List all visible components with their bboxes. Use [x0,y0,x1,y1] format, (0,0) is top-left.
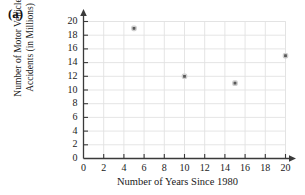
y-tick-label: 18 [56,29,78,40]
data-point [182,74,186,78]
y-tick-label: 14 [56,56,78,67]
x-tick-label: 2 [94,162,114,173]
gridlines [84,22,286,159]
data-point [132,26,136,30]
y-tick-label: 2 [56,138,78,149]
y-tick-label: 20 [56,15,78,26]
x-tick-label: 4 [114,162,134,173]
y-tick-label: 12 [56,70,78,81]
y-tick-label: 6 [56,111,78,122]
x-tick-label: 8 [154,162,174,173]
y-tick-label: 16 [56,42,78,53]
axes [80,9,296,162]
x-tick-label: 12 [195,162,215,173]
y-tick-label: 8 [56,97,78,108]
x-tick-label: 6 [134,162,154,173]
x-tick-label: 18 [255,162,275,173]
y-tick-label: 4 [56,125,78,136]
data-point [233,81,237,85]
x-tick-label: 0 [74,162,94,173]
scatter-chart: Number of Motor Vehicle Accidents (in Mi… [0,0,305,195]
x-tick-label: 10 [175,162,195,173]
data-point [283,54,287,58]
x-tick-label: 16 [235,162,255,173]
y-axis-arrowhead [80,9,87,16]
x-tick-label: 20 [276,162,296,173]
x-tick-label: 14 [215,162,235,173]
y-tick-label: 10 [56,84,78,95]
